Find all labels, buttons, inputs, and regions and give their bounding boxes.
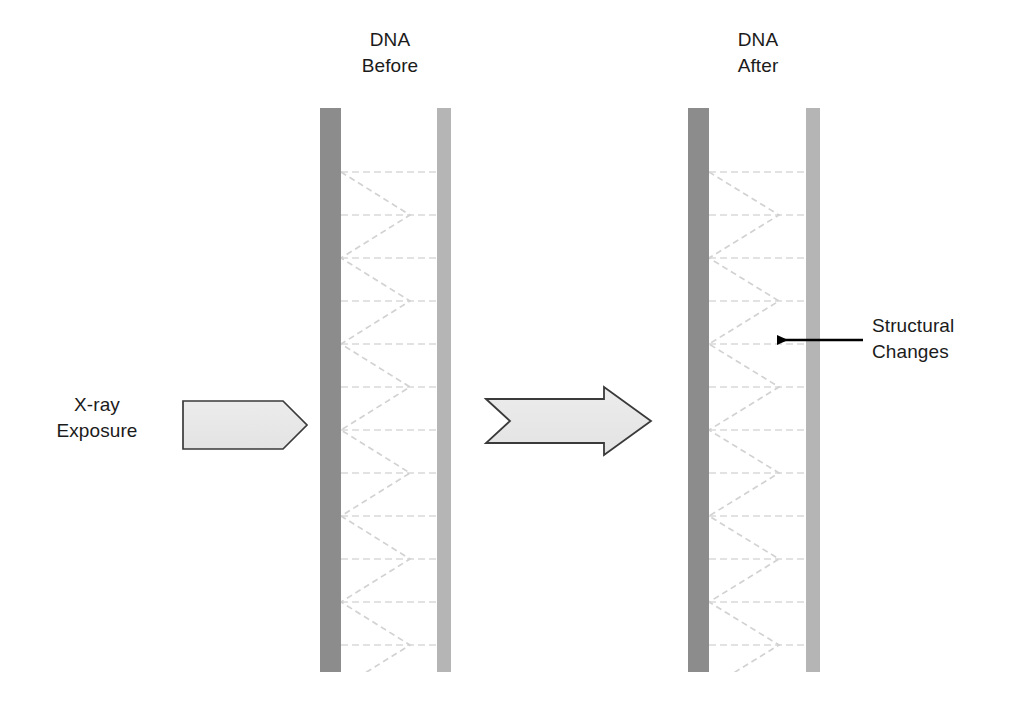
transformation-arrow-body: [486, 387, 651, 455]
diagram-canvas: DNA Before DNA After X-ray Exposure Stru…: [0, 0, 1012, 705]
label-xray-exposure: X-ray Exposure: [22, 392, 172, 444]
label-structural-changes: Structural Changes: [872, 313, 1007, 365]
label-dna-after: DNA After: [668, 27, 848, 79]
dna-after-group: [688, 108, 820, 688]
dna-before-left-strand: [320, 108, 341, 672]
xray-exposure-arrow: [183, 401, 307, 449]
dna-after-rungs: [709, 172, 806, 645]
dna-before-right-strand: [437, 108, 451, 672]
dna-after-right-strand: [806, 108, 820, 672]
dna-before-rungs: [341, 172, 437, 645]
dna-diagram-graphics: [0, 0, 1012, 705]
dna-before-group: [320, 108, 451, 688]
dna-after-left-strand: [688, 108, 709, 672]
label-dna-before: DNA Before: [300, 27, 480, 79]
